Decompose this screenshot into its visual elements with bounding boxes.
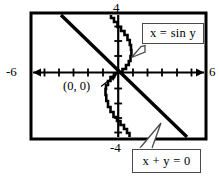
callout-x-equals-sin-y: x = sin y [142,23,204,44]
axis-label-ymin: -4 [110,141,121,154]
callout-x-plus-y-equals-zero: x + y = 0 [132,149,201,173]
axis-label-xmax: 6 [209,65,216,78]
axis-label-ymax: 4 [113,1,120,14]
graph-figure: 4 -6 6 -4 (0, 0) x = sin y x + y = 0 [0,0,219,178]
axis-label-xmin: -6 [6,65,17,78]
origin-point-label: (0, 0) [63,80,90,93]
